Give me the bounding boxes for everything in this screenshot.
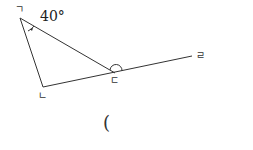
point-label-c: ㄷ [110,76,119,86]
angle-arc-a [28,26,34,31]
point-label-d: ㄹ [196,51,205,61]
angle-label: 40° [40,9,65,23]
point-label-a: ㄱ [15,5,24,15]
answer-parenthesis: ( [103,114,110,132]
angle-arc-c [110,64,122,71]
triangle-diagram [0,0,253,150]
point-label-b: ㄴ [38,91,47,101]
